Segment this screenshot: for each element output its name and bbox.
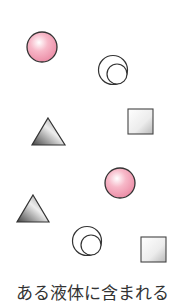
square-particle — [128, 109, 153, 134]
double-circle-particle — [99, 56, 128, 85]
caption-text: ある液体に含まれる — [0, 279, 185, 304]
pink-sphere-particle — [27, 32, 57, 62]
pink-sphere-particle — [105, 168, 135, 198]
double-circle-particle — [73, 227, 102, 256]
triangle-particle — [32, 118, 65, 145]
triangle-particle — [17, 195, 49, 222]
square-particle — [141, 237, 166, 262]
